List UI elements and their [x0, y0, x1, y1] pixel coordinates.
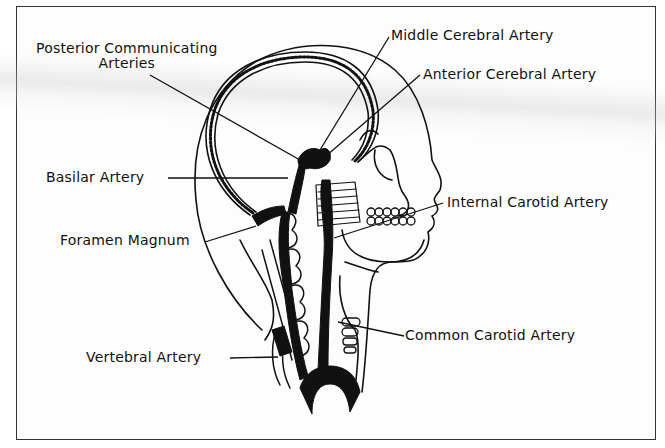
leader-anterior-cerebral	[326, 75, 420, 156]
common-carotid-artery-shape	[300, 366, 360, 414]
label-basilar-artery: Basilar Artery	[46, 170, 144, 185]
internal-carotid-artery-shape	[318, 180, 333, 370]
teeth	[367, 208, 415, 225]
label-vertebral-artery: Vertebral Artery	[86, 350, 201, 365]
label-middle-cerebral-artery: Middle Cerebral Artery	[391, 28, 554, 43]
label-foramen-magnum: Foramen Magnum	[60, 233, 190, 248]
label-posterior-communicating-arteries: Posterior Communicating Arteries	[36, 41, 218, 71]
label-anterior-cerebral-artery: Anterior Cerebral Artery	[423, 67, 596, 82]
label-internal-carotid-artery: Internal Carotid Artery	[447, 195, 609, 210]
circle-of-willis	[298, 148, 330, 168]
label-common-carotid-artery: Common Carotid Artery	[405, 328, 575, 343]
label-posterior-communicating-line1: Posterior Communicating	[36, 41, 218, 56]
vertebral-dark-patch	[272, 326, 292, 356]
label-posterior-communicating-line2: Arteries	[36, 56, 218, 71]
leader-middle-cerebral	[320, 37, 389, 150]
face-skull	[358, 146, 409, 216]
leader-vertebral	[230, 357, 278, 358]
leader-common-carotid	[338, 322, 404, 336]
leader-foramen-magnum	[205, 226, 256, 242]
hyoid	[345, 262, 378, 272]
basilar-artery-shape	[288, 162, 306, 214]
orbit	[374, 150, 392, 180]
mandible	[342, 230, 424, 262]
